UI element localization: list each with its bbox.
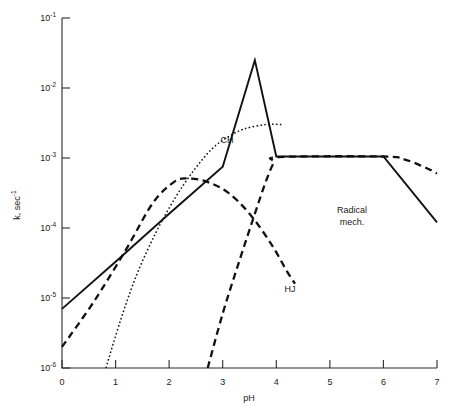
- curve-solid-total: [62, 60, 437, 309]
- y-axis-title: k, sec-1: [10, 190, 22, 220]
- y-axis-ticks: [62, 18, 70, 368]
- x-tick-label: 7: [434, 377, 439, 387]
- y-tick-labels: 10-1 10-2 10-3 10-4 10-5 10-6: [40, 11, 56, 373]
- x-tick-label: 4: [274, 377, 279, 387]
- annotation-radical-line1: Radical: [337, 205, 367, 215]
- svg-text:10-1: 10-1: [40, 11, 56, 23]
- svg-text:10-5: 10-5: [40, 291, 56, 303]
- svg-text:10-3: 10-3: [40, 151, 56, 163]
- annotation-radical-mech: Radical mech.: [337, 205, 367, 227]
- curves-group: [62, 60, 437, 368]
- svg-text:10-6: 10-6: [40, 361, 56, 373]
- annotation-radical-line2: mech.: [340, 217, 365, 227]
- x-tick-label: 6: [381, 377, 386, 387]
- x-tick-label: 1: [113, 377, 118, 387]
- x-tick-label: 3: [220, 377, 225, 387]
- x-axis-ticks: [62, 360, 437, 368]
- curve-dashed-radical: [208, 156, 437, 368]
- curve-dashed-HJ: [62, 178, 295, 347]
- x-axis-title: pH: [243, 393, 255, 403]
- chart-figure: 10-1 10-2 10-3 10-4 10-5 10-6 0 1 2 3 4 …: [0, 0, 449, 406]
- x-tick-label: 0: [59, 377, 64, 387]
- svg-text:10-4: 10-4: [40, 221, 56, 233]
- curve-label-ch: CH: [221, 135, 234, 145]
- axis-frame: [62, 18, 437, 368]
- x-tick-label: 2: [167, 377, 172, 387]
- curve-label-hj: HJ: [285, 284, 296, 294]
- x-tick-labels: 0 1 2 3 4 5 6 7: [59, 377, 439, 387]
- chart-svg: 10-1 10-2 10-3 10-4 10-5 10-6 0 1 2 3 4 …: [0, 0, 449, 406]
- x-tick-label: 5: [327, 377, 332, 387]
- svg-text:10-2: 10-2: [40, 81, 56, 93]
